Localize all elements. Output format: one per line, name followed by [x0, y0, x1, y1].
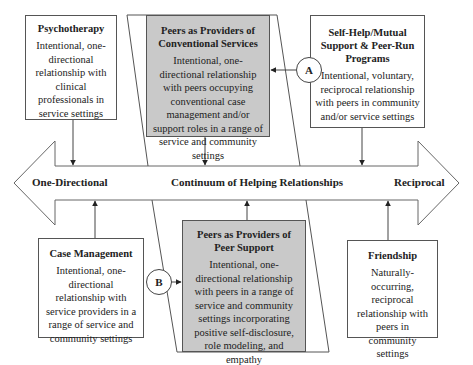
psychotherapy-box: Psychotherapy Intentional, one-direction…	[25, 15, 117, 120]
friendship-title: Friendship	[352, 249, 433, 262]
self-help-box: Self-Help/Mutual Support & Peer-Run Prog…	[310, 15, 425, 128]
self-help-title: Self-Help/Mutual Support & Peer-Run Prog…	[315, 26, 420, 65]
peers-conventional-services-box: Peers as Providers of Conventional Servi…	[146, 15, 270, 137]
self-help-description: Intentional, voluntary, reciprocal relat…	[315, 69, 420, 123]
peers-support-description: Intentional, one-directional relationshi…	[187, 258, 301, 365]
peers-conventional-description: Intentional, one-directional relationshi…	[151, 54, 265, 162]
peers-support-title: Peers as Providers of Peer Support	[187, 228, 301, 254]
friendship-box: Friendship Naturally-occurring, reciproc…	[347, 240, 438, 338]
reciprocal-label: Reciprocal	[394, 176, 445, 188]
case-management-box: Case Management Intentional, one-directi…	[38, 238, 144, 338]
marker-a: A	[296, 57, 322, 83]
psychotherapy-title: Psychotherapy	[30, 22, 112, 35]
marker-b: B	[146, 269, 172, 295]
peers-peer-support-box: Peers as Providers of Peer Support Inten…	[182, 220, 306, 352]
psychotherapy-description: Intentional, one-directional relationshi…	[30, 39, 112, 120]
one-directional-label: One-Directional	[32, 176, 108, 188]
peers-conventional-title: Peers as Providers of Conventional Servi…	[151, 24, 265, 50]
case-management-title: Case Management	[43, 247, 139, 260]
continuum-label: Continuum of Helping Relationships	[171, 176, 343, 188]
case-management-description: Intentional, one-directional relationshi…	[43, 264, 139, 345]
friendship-description: Naturally-occurring, reciprocal relation…	[352, 266, 433, 361]
